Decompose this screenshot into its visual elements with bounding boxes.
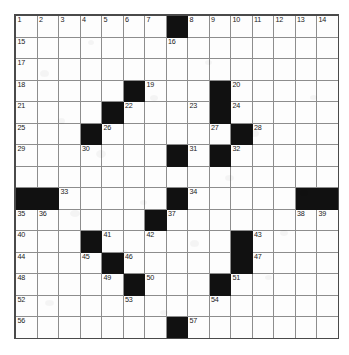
grid-cell[interactable] (59, 274, 81, 296)
grid-cell[interactable] (188, 38, 210, 60)
grid-cell[interactable] (296, 145, 318, 167)
grid-cell[interactable]: 10 (231, 16, 253, 38)
grid-cell[interactable] (317, 231, 339, 253)
grid-cell[interactable] (253, 296, 275, 318)
grid-cell[interactable]: 2 (38, 16, 60, 38)
grid-cell[interactable]: 30 (81, 145, 103, 167)
grid-cell[interactable]: 44 (16, 253, 38, 275)
grid-cell[interactable] (274, 81, 296, 103)
grid-cell[interactable] (167, 167, 189, 189)
grid-cell[interactable]: 16 (167, 38, 189, 60)
grid-cell[interactable] (81, 167, 103, 189)
grid-cell[interactable]: 47 (253, 253, 275, 275)
grid-cell[interactable] (274, 59, 296, 81)
grid-cell[interactable] (274, 274, 296, 296)
grid-cell[interactable] (296, 253, 318, 275)
grid-cell[interactable] (124, 167, 146, 189)
grid-cell[interactable] (145, 124, 167, 146)
grid-cell[interactable] (253, 38, 275, 60)
grid-cell[interactable] (210, 231, 232, 253)
grid-cell[interactable] (317, 102, 339, 124)
grid-cell[interactable] (59, 167, 81, 189)
grid-cell[interactable] (38, 124, 60, 146)
grid-cell[interactable]: 31 (188, 145, 210, 167)
grid-cell[interactable] (124, 231, 146, 253)
grid-cell[interactable] (81, 38, 103, 60)
grid-cell[interactable] (210, 59, 232, 81)
grid-cell[interactable] (102, 210, 124, 232)
grid-cell[interactable] (16, 167, 38, 189)
grid-cell[interactable]: 22 (124, 102, 146, 124)
grid-cell[interactable] (38, 81, 60, 103)
grid-cell[interactable] (59, 145, 81, 167)
grid-cell[interactable] (59, 59, 81, 81)
grid-cell[interactable] (188, 167, 210, 189)
grid-cell[interactable] (188, 210, 210, 232)
grid-cell[interactable] (124, 188, 146, 210)
grid-cell[interactable] (145, 188, 167, 210)
grid-cell[interactable]: 42 (145, 231, 167, 253)
grid-cell[interactable] (59, 317, 81, 339)
grid-cell[interactable] (145, 167, 167, 189)
grid-cell[interactable]: 3 (59, 16, 81, 38)
grid-cell[interactable] (167, 274, 189, 296)
grid-cell[interactable] (145, 296, 167, 318)
grid-cell[interactable] (253, 274, 275, 296)
grid-cell[interactable] (296, 102, 318, 124)
grid-cell[interactable]: 8 (188, 16, 210, 38)
grid-cell[interactable] (38, 38, 60, 60)
grid-cell[interactable] (296, 38, 318, 60)
grid-cell[interactable]: 9 (210, 16, 232, 38)
grid-cell[interactable] (124, 317, 146, 339)
grid-cell[interactable]: 49 (102, 274, 124, 296)
grid-cell[interactable] (124, 38, 146, 60)
grid-cell[interactable]: 1 (16, 16, 38, 38)
grid-cell[interactable]: 20 (231, 81, 253, 103)
grid-cell[interactable] (317, 253, 339, 275)
grid-cell[interactable] (59, 38, 81, 60)
grid-cell[interactable]: 50 (145, 274, 167, 296)
grid-cell[interactable] (317, 296, 339, 318)
grid-cell[interactable] (145, 59, 167, 81)
grid-cell[interactable] (231, 59, 253, 81)
grid-cell[interactable] (38, 231, 60, 253)
grid-cell[interactable] (231, 296, 253, 318)
grid-cell[interactable] (38, 274, 60, 296)
grid-cell[interactable] (188, 296, 210, 318)
grid-cell[interactable]: 25 (16, 124, 38, 146)
grid-cell[interactable] (231, 167, 253, 189)
grid-cell[interactable]: 27 (210, 124, 232, 146)
grid-cell[interactable]: 53 (124, 296, 146, 318)
grid-cell[interactable] (253, 210, 275, 232)
grid-cell[interactable]: 4 (81, 16, 103, 38)
grid-cell[interactable] (59, 81, 81, 103)
grid-cell[interactable] (317, 274, 339, 296)
grid-cell[interactable] (59, 231, 81, 253)
grid-cell[interactable]: 51 (231, 274, 253, 296)
grid-cell[interactable] (317, 145, 339, 167)
grid-cell[interactable]: 38 (296, 210, 318, 232)
grid-cell[interactable] (188, 81, 210, 103)
grid-cell[interactable]: 41 (102, 231, 124, 253)
grid-cell[interactable] (188, 59, 210, 81)
grid-cell[interactable] (274, 167, 296, 189)
grid-cell[interactable] (253, 317, 275, 339)
grid-cell[interactable] (102, 59, 124, 81)
grid-cell[interactable]: 40 (16, 231, 38, 253)
grid-cell[interactable] (59, 210, 81, 232)
grid-cell[interactable]: 39 (317, 210, 339, 232)
grid-cell[interactable] (253, 167, 275, 189)
grid-cell[interactable]: 17 (16, 59, 38, 81)
grid-cell[interactable] (210, 210, 232, 232)
grid-cell[interactable]: 14 (317, 16, 339, 38)
grid-cell[interactable]: 33 (59, 188, 81, 210)
grid-cell[interactable] (188, 253, 210, 275)
grid-cell[interactable] (38, 145, 60, 167)
grid-cell[interactable] (274, 210, 296, 232)
grid-cell[interactable] (274, 102, 296, 124)
grid-cell[interactable] (124, 210, 146, 232)
grid-cell[interactable] (38, 296, 60, 318)
grid-cell[interactable]: 7 (145, 16, 167, 38)
grid-cell[interactable] (59, 102, 81, 124)
crossword-grid[interactable]: 1234567891011121314151617181920212223242… (15, 15, 339, 339)
